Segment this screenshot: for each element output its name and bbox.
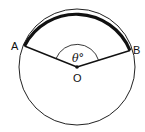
radius-oa bbox=[25, 46, 78, 67]
label-a: A bbox=[11, 40, 19, 52]
label-theta: θ° bbox=[72, 52, 84, 65]
radius-ob bbox=[77, 51, 130, 68]
label-o: O bbox=[73, 72, 82, 84]
arc-ab-highlight bbox=[25, 14, 131, 50]
circle-diagram: A B O θ° bbox=[0, 0, 145, 132]
label-b: B bbox=[133, 44, 140, 56]
center-point bbox=[75, 65, 79, 69]
